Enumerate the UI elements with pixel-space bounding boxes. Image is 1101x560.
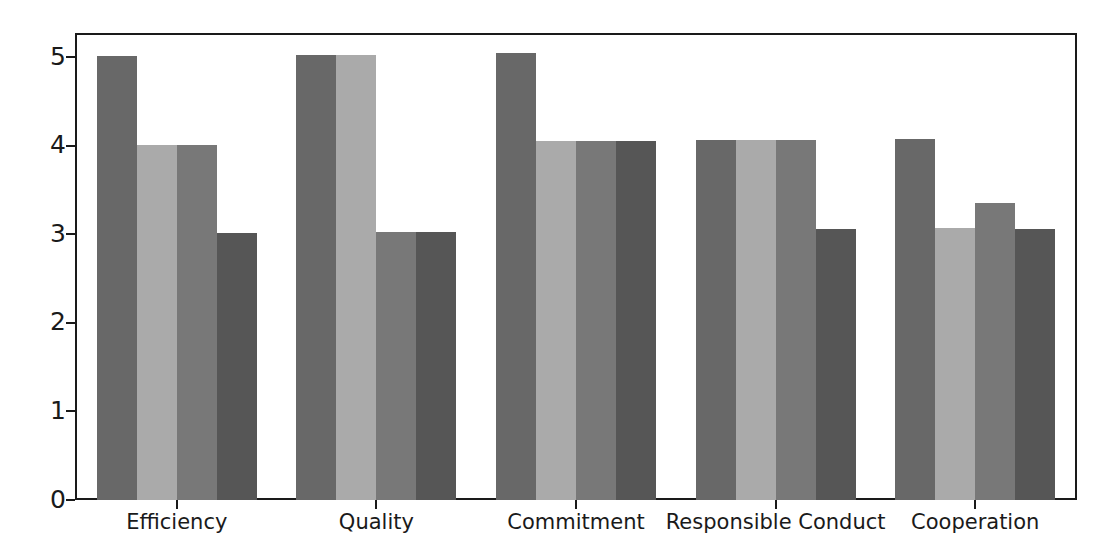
- x-axis-tick-label: Cooperation: [911, 511, 1039, 534]
- bar-group: [97, 35, 257, 500]
- bar[interactable]: [935, 228, 975, 500]
- x-axis-tick-label: Quality: [339, 511, 414, 534]
- x-axis-tick-mark: [575, 500, 577, 509]
- x-axis-tick-mark: [974, 500, 976, 509]
- bar[interactable]: [776, 140, 816, 500]
- bar[interactable]: [217, 233, 257, 500]
- bar[interactable]: [1015, 229, 1055, 500]
- bar[interactable]: [536, 141, 576, 500]
- bar[interactable]: [696, 140, 736, 500]
- x-axis-tick-label: Efficiency: [126, 511, 227, 534]
- bar[interactable]: [296, 55, 336, 500]
- bar[interactable]: [137, 145, 177, 500]
- y-axis: 012345: [0, 0, 75, 560]
- x-axis-tick-label: Responsible Conduct: [666, 511, 886, 534]
- bar[interactable]: [177, 145, 217, 500]
- y-axis-tick-mark: [66, 145, 75, 147]
- y-axis-tick-mark: [66, 233, 75, 235]
- bar-group: [496, 35, 656, 500]
- bar[interactable]: [576, 141, 616, 500]
- bar[interactable]: [496, 53, 536, 500]
- x-axis-tick-mark: [775, 500, 777, 509]
- bar[interactable]: [416, 232, 456, 500]
- x-axis-tick-mark: [375, 500, 377, 509]
- bar-group: [895, 35, 1055, 500]
- bar[interactable]: [736, 140, 776, 500]
- y-axis-tick-mark: [66, 410, 75, 412]
- bar[interactable]: [816, 229, 856, 500]
- bar[interactable]: [975, 203, 1015, 500]
- bar[interactable]: [336, 55, 376, 500]
- x-axis-tick-label: Commitment: [507, 511, 644, 534]
- bar-chart: 012345 EfficiencyQualityCommitmentRespon…: [0, 0, 1101, 560]
- y-axis-tick-mark: [66, 56, 75, 58]
- bar[interactable]: [376, 232, 416, 500]
- bar-group: [296, 35, 456, 500]
- x-axis-tick-mark: [176, 500, 178, 509]
- y-axis-tick-mark: [66, 322, 75, 324]
- x-axis: EfficiencyQualityCommitmentResponsible C…: [0, 500, 1101, 560]
- bar[interactable]: [895, 139, 935, 500]
- plot-area: [77, 35, 1075, 500]
- bar[interactable]: [97, 56, 137, 500]
- bar[interactable]: [616, 141, 656, 500]
- bar-group: [696, 35, 856, 500]
